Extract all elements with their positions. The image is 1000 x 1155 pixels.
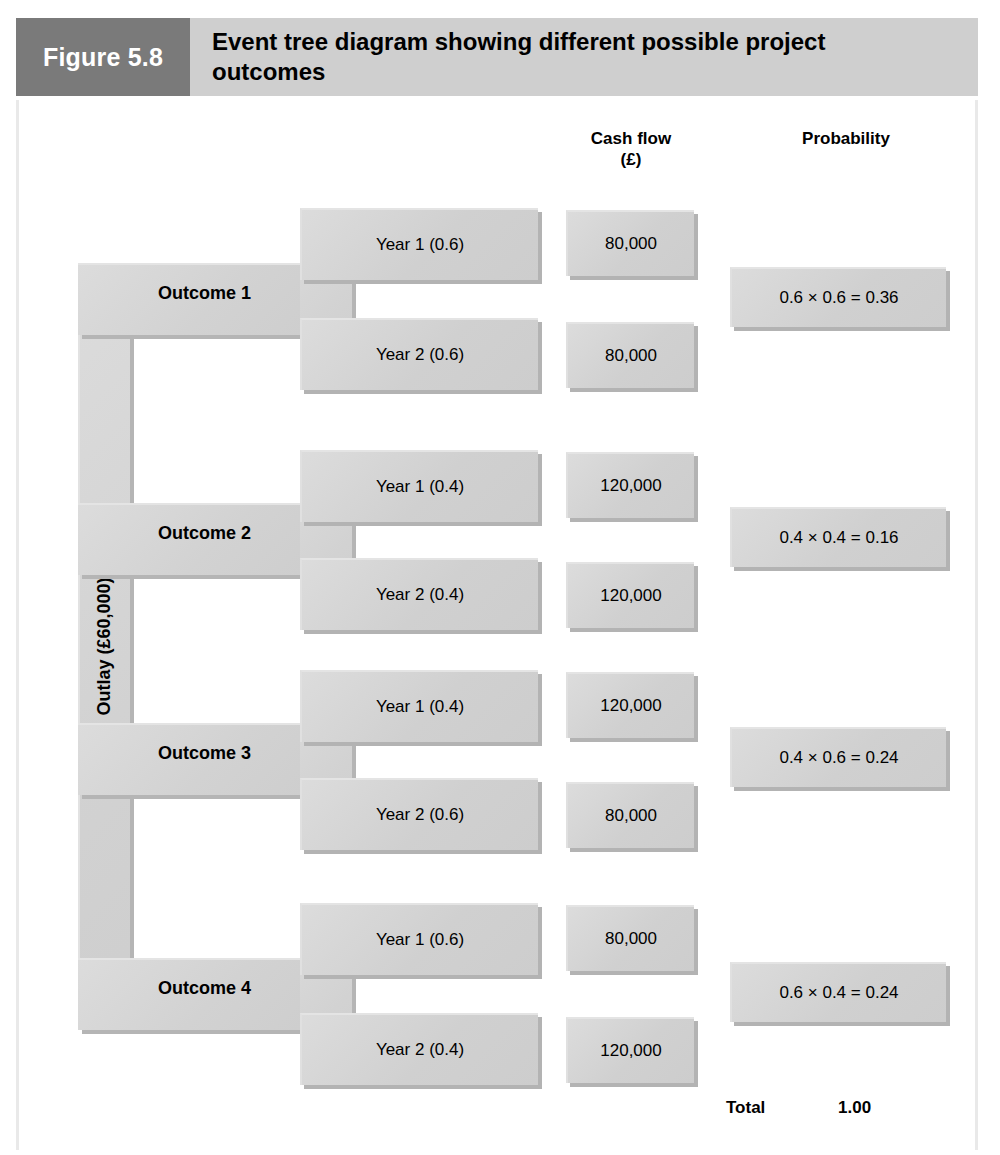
outcome-1-label: Outcome 1: [158, 283, 251, 304]
cash-box-o2-y2: 120,000: [566, 562, 694, 628]
cash-box-o4-y1: 80,000: [566, 905, 694, 971]
figure-number-tag: Figure 5.8: [16, 18, 190, 96]
year-box-o2-y1: Year 1 (0.4): [300, 450, 538, 522]
probability-box-outcome-4: 0.6 × 0.4 = 0.24: [730, 962, 946, 1022]
outcome-2-label: Outcome 2: [158, 523, 251, 544]
cash-box-o3-y2: 80,000: [566, 782, 694, 848]
column-header-probability: Probability: [726, 128, 966, 149]
outcome-4-label: Outcome 4: [158, 978, 251, 999]
figure-frame-right-border: [975, 100, 978, 1150]
total-row: Total 1.00: [726, 1098, 966, 1118]
figure-frame-left-border: [16, 100, 19, 1150]
column-header-cash-flow-line2: (£): [548, 149, 714, 170]
figure-title: Event tree diagram showing different pos…: [212, 27, 852, 87]
year-box-o1-y2: Year 2 (0.6): [300, 318, 538, 390]
probability-box-outcome-3: 0.4 × 0.6 = 0.24: [730, 727, 946, 787]
cash-box-o4-y2: 120,000: [566, 1017, 694, 1083]
cash-box-o1-y2: 80,000: [566, 322, 694, 388]
year-box-o3-y1: Year 1 (0.4): [300, 670, 538, 742]
probability-box-outcome-1: 0.6 × 0.6 = 0.36: [730, 267, 946, 327]
column-header-cash-flow-line1: Cash flow: [548, 128, 714, 149]
column-header-cash-flow: Cash flow (£): [548, 128, 714, 170]
year-box-o4-y1: Year 1 (0.6): [300, 903, 538, 975]
figure-header: Figure 5.8 Event tree diagram showing di…: [16, 18, 978, 96]
cash-box-o2-y1: 120,000: [566, 452, 694, 518]
cash-box-o1-y1: 80,000: [566, 210, 694, 276]
total-label: Total: [726, 1098, 838, 1118]
total-value: 1.00: [838, 1098, 948, 1118]
year-box-o2-y2: Year 2 (0.4): [300, 558, 538, 630]
outcome-3-label: Outcome 3: [158, 743, 251, 764]
cash-box-o3-y1: 120,000: [566, 672, 694, 738]
outlay-trunk: [78, 263, 130, 1030]
probability-box-outcome-2: 0.4 × 0.4 = 0.16: [730, 507, 946, 567]
year-box-o3-y2: Year 2 (0.6): [300, 778, 538, 850]
year-box-o4-y2: Year 2 (0.4): [300, 1013, 538, 1085]
figure-container: Figure 5.8 Event tree diagram showing di…: [0, 0, 1000, 1155]
figure-title-band: Event tree diagram showing different pos…: [190, 18, 978, 96]
year-box-o1-y1: Year 1 (0.6): [300, 208, 538, 280]
